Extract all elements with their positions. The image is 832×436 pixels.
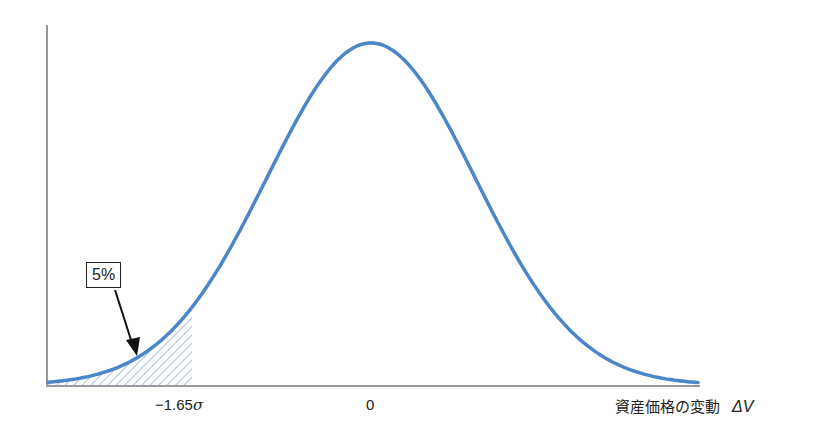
arrow-head-icon — [126, 337, 140, 356]
delta-v-symbol: ΔV — [732, 398, 753, 415]
tick-value: 0 — [366, 396, 374, 413]
sigma-symbol: σ — [193, 396, 203, 414]
tail-percentage-text: 5% — [92, 266, 115, 283]
x-tick-neg-1.65-sigma: −1.65σ — [155, 396, 203, 414]
distribution-curve — [48, 43, 698, 383]
x-tick-zero: 0 — [366, 396, 374, 413]
normal-distribution-chart — [0, 0, 832, 436]
annotation-arrow — [115, 290, 132, 343]
x-axis-title: 資産価格の変動 — [615, 398, 720, 415]
x-axis-label: 資産価格の変動ΔV — [615, 395, 753, 416]
tail-percentage-label: 5% — [86, 262, 121, 288]
tick-value: −1.65 — [155, 396, 193, 413]
tail-area-5pct — [48, 307, 192, 386]
